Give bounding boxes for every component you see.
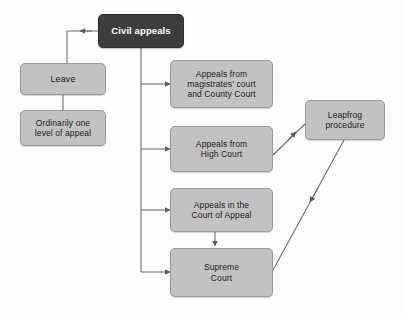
node-leapfrog-procedure-label: Leapfrog procedure (322, 110, 367, 130)
node-ordinarily-one-level-label: Ordinarily one level of appeal (32, 118, 94, 138)
node-supreme-court[interactable]: Supreme Court (170, 248, 273, 297)
edge-leapfrog-to-supreme-court-arrowhead (310, 188, 318, 202)
node-leapfrog-procedure[interactable]: Leapfrog procedure (305, 100, 385, 140)
node-appeals-court-of-appeal[interactable]: Appeals in the Court of Appeal (170, 188, 273, 232)
node-civil-appeals-label: Civil appeals (108, 25, 173, 36)
node-leave-label: Leave (47, 74, 78, 85)
node-supreme-court-label: Supreme Court (201, 262, 242, 282)
node-appeals-high-court-label: Appeals from High Court (193, 139, 250, 159)
node-civil-appeals[interactable]: Civil appeals (98, 14, 184, 48)
node-appeals-magistrates-county-label: Appeals from magistrates' court and Coun… (184, 69, 259, 99)
node-leave[interactable]: Leave (20, 63, 106, 95)
edge-high-court-to-leapfrog-arrowhead (288, 132, 296, 140)
flowchart-canvas: Civil appeals Leave Ordinarily one level… (0, 0, 405, 313)
node-ordinarily-one-level[interactable]: Ordinarily one level of appeal (20, 110, 106, 146)
node-appeals-magistrates-county[interactable]: Appeals from magistrates' court and Coun… (170, 60, 273, 108)
edge-leapfrog-to-supreme-court (273, 140, 344, 270)
node-appeals-high-court[interactable]: Appeals from High Court (170, 126, 273, 172)
node-appeals-court-of-appeal-label: Appeals in the Court of Appeal (188, 200, 254, 220)
edge-civil-appeals-to-leave (67, 31, 98, 63)
